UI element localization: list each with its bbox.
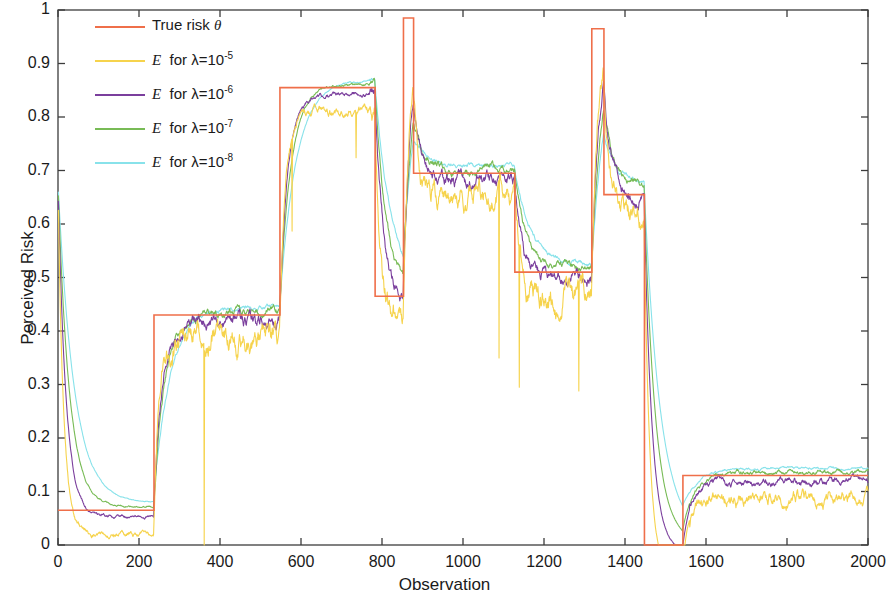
series-line-lambda_1e7 [58, 78, 868, 531]
x-tick-label: 1000 [433, 553, 493, 571]
legend-label-true_risk: True risk θ [152, 16, 221, 34]
x-tick-label: 600 [271, 553, 331, 571]
plot-canvas [0, 0, 889, 603]
x-tick-label: 400 [190, 553, 250, 571]
y-tick-label: 0.9 [10, 54, 50, 72]
series-line-lambda_1e8 [58, 78, 868, 505]
x-tick-label: 0 [28, 553, 88, 571]
x-tick-label: 200 [109, 553, 169, 571]
legend-label-lambda_1e6: E for λ=10-6 [152, 84, 233, 103]
y-axis-title: Perceived Risk [18, 208, 38, 368]
y-tick-label: 1 [10, 0, 50, 18]
y-tick-label: 0.6 [10, 214, 50, 232]
x-tick-label: 2000 [838, 553, 889, 571]
y-tick-label: 0 [10, 535, 50, 553]
y-tick-label: 0.3 [10, 375, 50, 393]
x-tick-label: 1400 [595, 553, 655, 571]
y-tick-label: 0.4 [10, 321, 50, 339]
x-tick-label: 1200 [514, 553, 574, 571]
y-tick-label: 0.8 [10, 107, 50, 125]
legend-label-lambda_1e7: E for λ=10-7 [152, 118, 233, 137]
y-tick-label: 0.2 [10, 428, 50, 446]
x-tick-label: 800 [352, 553, 412, 571]
y-tick-label: 0.5 [10, 268, 50, 286]
x-tick-label: 1600 [676, 553, 736, 571]
x-axis-title: Observation [0, 575, 889, 595]
legend-label-lambda_1e5: E for λ=10-5 [152, 50, 233, 69]
y-tick-label: 0.7 [10, 161, 50, 179]
legend-label-lambda_1e8: E for λ=10-8 [152, 152, 233, 171]
y-tick-label: 0.1 [10, 482, 50, 500]
x-tick-label: 1800 [757, 553, 817, 571]
chart-figure: Perceived Risk Observation 00.10.20.30.4… [0, 0, 889, 603]
